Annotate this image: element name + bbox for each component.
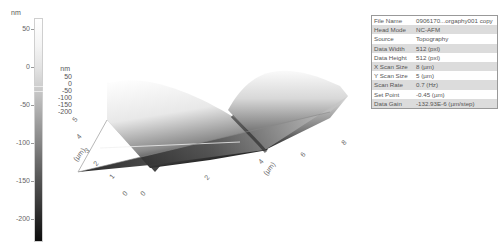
info-row: Y Scan Size5 (µm)	[372, 71, 498, 80]
info-value: NC-AFM	[414, 25, 498, 34]
info-value: Topography	[414, 34, 498, 43]
info-key: File Name	[372, 16, 415, 26]
info-row: Data Gain-132.93E-6 (µm/step)	[372, 99, 498, 109]
info-row: Scan Rate0.7 (Hz)	[372, 80, 498, 89]
info-row: X Scan Size8 (µm)	[372, 62, 498, 71]
info-value: 512 (pxl)	[414, 44, 498, 53]
info-key: Data Gain	[372, 99, 415, 109]
z-tick: -50	[42, 87, 72, 94]
z-tick: -200	[42, 108, 72, 115]
info-value: 512 (pxl)	[414, 53, 498, 62]
info-row: File Name0906170...orgaphy001 copy	[372, 16, 498, 26]
info-value: 0.7 (Hz)	[414, 80, 498, 89]
info-row: Data Width512 (pxl)	[372, 44, 498, 53]
info-value: -132.93E-6 (µm/step)	[414, 99, 498, 109]
info-value: 5 (µm)	[414, 71, 498, 80]
info-key: X Scan Size	[372, 62, 415, 71]
info-value: -0.45 (µm)	[414, 90, 498, 99]
info-row: SourceTopography	[372, 34, 498, 43]
info-key: Head Mode	[372, 25, 415, 34]
surface-3d-plot	[0, 0, 360, 249]
z-tick: 50	[42, 73, 72, 80]
info-key: Y Scan Size	[372, 71, 415, 80]
info-key: Scan Rate	[372, 80, 415, 89]
z-tick: -150	[42, 101, 72, 108]
scan-info-table: File Name0906170...orgaphy001 copyHead M…	[371, 15, 498, 109]
info-row: Head ModeNC-AFM	[372, 25, 498, 34]
info-row: Data Height512 (pxl)	[372, 53, 498, 62]
info-value: 0906170...orgaphy001 copy	[414, 16, 498, 26]
info-key: Set Point	[372, 90, 415, 99]
info-value: 8 (µm)	[414, 62, 498, 71]
info-key: Data Height	[372, 53, 415, 62]
z-tick: -100	[42, 94, 72, 101]
info-key: Data Width	[372, 44, 415, 53]
z-tick: 0	[42, 80, 72, 87]
z-axis-unit: nm	[40, 65, 70, 72]
info-row: Set Point-0.45 (µm)	[372, 90, 498, 99]
info-key: Source	[372, 34, 415, 43]
